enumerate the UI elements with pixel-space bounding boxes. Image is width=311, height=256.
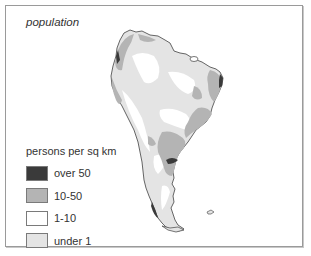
- legend-label: 10-50: [54, 190, 82, 202]
- legend-item-under-1: under 1: [26, 230, 116, 253]
- legend-heading: persons per sq km: [26, 145, 116, 158]
- legend-item-over-50: over 50: [26, 162, 116, 185]
- legend-swatch: [26, 211, 48, 226]
- falkland-islands: [207, 210, 214, 214]
- legend-label: 1-10: [54, 212, 76, 224]
- legend-swatch: [26, 166, 48, 181]
- map-frame: population persons per sq km: [5, 5, 303, 247]
- legend-label: over 50: [54, 167, 91, 179]
- amazon-estuary: [190, 57, 198, 62]
- legend-swatch: [26, 233, 48, 248]
- legend-label: under 1: [54, 235, 91, 247]
- legend-swatch: [26, 188, 48, 203]
- legend-item-10-50: 10-50: [26, 185, 116, 208]
- map-title: population: [26, 16, 79, 28]
- legend-item-1-10: 1-10: [26, 207, 116, 230]
- map-legend: persons per sq km over 50 10-50 1-10 und…: [26, 145, 116, 252]
- south-america-map: [102, 26, 266, 246]
